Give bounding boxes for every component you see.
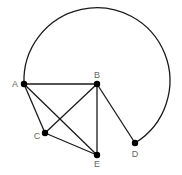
node-b — [94, 81, 100, 87]
node-d — [132, 140, 138, 146]
edge-b-d — [97, 84, 135, 143]
label-e: E — [94, 159, 100, 169]
edge-b-c — [45, 84, 97, 133]
graph-diagram: A B C D E — [0, 0, 182, 175]
node-e — [94, 152, 100, 158]
label-b: B — [94, 70, 100, 80]
edge-c-e — [45, 133, 97, 155]
label-a: A — [12, 79, 18, 89]
label-c: C — [34, 131, 41, 141]
node-a — [21, 81, 27, 87]
label-d: D — [132, 149, 139, 159]
edge-a-c — [24, 84, 45, 133]
node-c — [42, 130, 48, 136]
